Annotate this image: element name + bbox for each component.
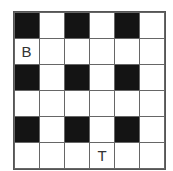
black-cell <box>114 64 140 91</box>
black-cell <box>64 12 90 39</box>
white-cell <box>64 142 90 169</box>
white-cell <box>89 12 115 39</box>
black-cell <box>64 64 90 91</box>
white-cell <box>14 142 40 169</box>
white-cell <box>139 64 165 91</box>
white-cell <box>39 116 65 143</box>
white-cell <box>114 142 140 169</box>
white-cell <box>39 90 65 117</box>
black-cell <box>14 64 40 91</box>
white-cell <box>139 12 165 39</box>
white-cell <box>139 38 165 65</box>
white-cell <box>39 64 65 91</box>
white-cell <box>89 38 115 65</box>
black-cell <box>64 116 90 143</box>
white-cell <box>89 64 115 91</box>
white-cell <box>39 38 65 65</box>
white-cell <box>139 116 165 143</box>
black-cell <box>114 12 140 39</box>
white-cell <box>14 90 40 117</box>
grid-board: BT <box>13 11 166 170</box>
black-cell <box>114 116 140 143</box>
white-cell <box>39 142 65 169</box>
white-cell <box>89 90 115 117</box>
cell-label-t: T <box>89 142 115 169</box>
white-cell <box>114 90 140 117</box>
white-cell <box>114 38 140 65</box>
white-cell <box>139 90 165 117</box>
white-cell <box>64 90 90 117</box>
cell-label-b: B <box>14 38 40 65</box>
white-cell <box>89 116 115 143</box>
white-cell <box>139 142 165 169</box>
white-cell <box>39 12 65 39</box>
black-cell <box>14 116 40 143</box>
white-cell <box>64 38 90 65</box>
black-cell <box>14 12 40 39</box>
